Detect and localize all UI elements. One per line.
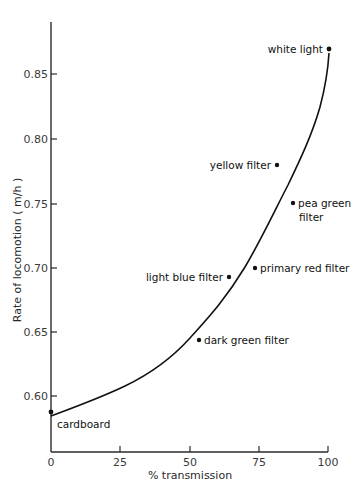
label-dark-green-filter: dark green filter: [204, 334, 290, 346]
x-tick-label: 75: [252, 456, 266, 469]
label-yellow-filter: yellow filter: [210, 159, 272, 171]
x-tick-label: 50: [183, 456, 197, 469]
y-ticks: [51, 74, 57, 396]
y-tick-label: 0.65: [24, 326, 49, 339]
x-tick-label: 100: [318, 456, 339, 469]
point-pea-green-filter: [291, 201, 295, 205]
point-primary-red-filter: [253, 266, 257, 270]
x-tick-label: 0: [48, 456, 55, 469]
point-dark-green-filter: [197, 338, 201, 342]
point-cardboard: [49, 410, 54, 415]
point-white-light: [327, 47, 332, 52]
label-white-light: white light: [268, 43, 323, 55]
label-light-blue-filter: light blue filter: [146, 271, 224, 283]
y-tick-label: 0.75: [24, 198, 49, 211]
data-points: [49, 47, 332, 415]
point-light-blue-filter: [227, 275, 231, 279]
fitted-curve: [51, 53, 329, 416]
y-tick-labels: 0.85 0.80 0.75 0.70 0.65 0.60: [24, 68, 49, 403]
y-tick-label: 0.60: [24, 390, 49, 403]
x-tick-label: 25: [113, 456, 127, 469]
y-tick-label: 0.70: [24, 262, 49, 275]
y-tick-label: 0.80: [24, 133, 49, 146]
chart-canvas: 0.85 0.80 0.75 0.70 0.65 0.60 0 25 50 75…: [0, 0, 356, 488]
point-labels: cardboard dark green filter light blue f…: [57, 43, 351, 430]
label-pea-green-line2: filter: [299, 211, 324, 223]
x-tick-labels: 0 25 50 75 100: [48, 456, 339, 469]
y-axis-title: Rate of locomotion ( m/h ): [11, 178, 24, 322]
x-ticks: [120, 446, 328, 452]
label-primary-red-filter: primary red filter: [260, 262, 350, 274]
x-axis-title: % transmission: [148, 469, 232, 482]
label-pea-green-line1: pea green: [298, 197, 351, 209]
y-tick-label: 0.85: [24, 68, 49, 81]
label-cardboard: cardboard: [57, 418, 110, 430]
point-yellow-filter: [275, 163, 279, 167]
